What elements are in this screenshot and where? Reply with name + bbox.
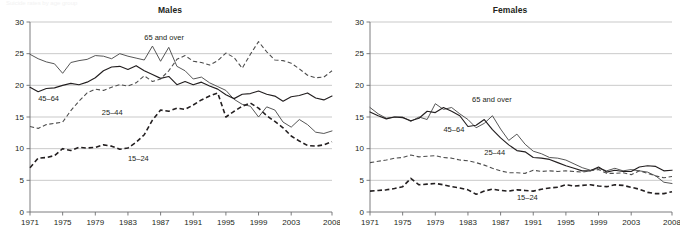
y-tick-label: 15: [355, 113, 364, 122]
x-tick-label: 1987: [492, 218, 510, 227]
y-tick-label: 20: [355, 81, 364, 90]
series-line-45-64: [30, 66, 332, 101]
series-label-25-44: 25–44: [484, 148, 505, 157]
series-annotations: 65 and over45–6425–4415–24: [38, 33, 184, 164]
series-label-65-and-over: 65 and over: [472, 95, 512, 104]
y-tick-label: 15: [15, 113, 24, 122]
axes: [27, 22, 333, 216]
y-tick-label: 30: [15, 18, 24, 27]
series-label-65-and-over: 65 and over: [144, 33, 184, 42]
panel-title-females: Females: [340, 5, 680, 15]
x-tick-label: 1987: [152, 218, 170, 227]
chart-svg-females: 0510152025301971197519791983198719911995…: [340, 0, 680, 239]
x-tick-label: 1979: [426, 218, 444, 227]
y-tick-label: 25: [355, 49, 364, 58]
x-tick-label: 1995: [557, 218, 575, 227]
x-tick-label: 2008: [323, 218, 340, 227]
x-tick-label: 1971: [361, 218, 379, 227]
y-tick-label: 30: [355, 18, 364, 27]
y-tick-label: 5: [360, 176, 365, 185]
series-line-15-24: [370, 178, 672, 194]
y-tick-label: 25: [15, 49, 24, 58]
y-tick-label: 0: [360, 208, 365, 217]
x-tick-label: 2003: [282, 218, 300, 227]
x-tick-labels: 1971197519791983198719911995199920032008: [21, 218, 340, 227]
gridlines: [370, 22, 672, 180]
y-tick-label: 10: [15, 144, 24, 153]
chart-svg-males: 0510152025301971197519791983198719911995…: [0, 0, 340, 239]
chart-panel-males: Males 0510152025301971197519791983198719…: [0, 0, 340, 239]
y-tick-label: 0: [20, 208, 25, 217]
y-tick-label: 20: [15, 81, 24, 90]
x-tick-label: 1991: [184, 218, 202, 227]
x-tick-label: 1995: [217, 218, 235, 227]
figure-root: Suicide rates by age group Males 0510152…: [0, 0, 680, 239]
y-tick-label: 5: [20, 176, 25, 185]
y-tick-labels: 051015202530: [15, 18, 24, 217]
x-tick-label: 1999: [590, 218, 608, 227]
x-tick-labels: 1971197519791983198719911995199920032008: [361, 218, 680, 227]
x-tick-label: 1975: [54, 218, 72, 227]
series-line-25-44: [370, 155, 672, 178]
x-tick-label: 1983: [119, 218, 137, 227]
x-tick-label: 1983: [459, 218, 477, 227]
x-tick-label: 2003: [622, 218, 640, 227]
x-tick-label: 1975: [394, 218, 412, 227]
x-tick-label: 1971: [21, 218, 39, 227]
gridlines: [30, 22, 332, 180]
series-line-15-24: [30, 93, 332, 168]
series-label-15-24: 15–24: [128, 154, 149, 163]
x-tick-label: 2008: [663, 218, 680, 227]
chart-panel-females: Females 05101520253019711975197919831987…: [340, 0, 680, 239]
series-label-45-64: 45–64: [443, 125, 464, 134]
series-line-65-and-over: [30, 46, 332, 133]
panel-title-males: Males: [0, 5, 340, 15]
x-tick-label: 1991: [524, 218, 542, 227]
y-tick-labels: 051015202530: [355, 18, 364, 217]
series-label-25-44: 25–44: [102, 108, 123, 117]
x-tick-label: 1999: [250, 218, 268, 227]
y-tick-label: 10: [355, 144, 364, 153]
x-tick-label: 1979: [86, 218, 104, 227]
series-label-45-64: 45–64: [38, 94, 59, 103]
series-label-15-24: 15–24: [517, 193, 538, 202]
